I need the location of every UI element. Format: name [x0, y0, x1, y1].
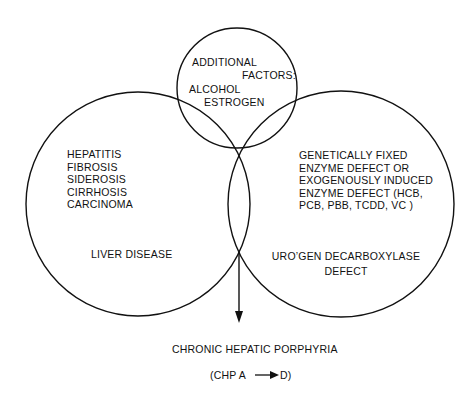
factor-item-estrogen: ESTROGEN [204, 96, 265, 109]
factor-item-alcohol: ALCOHOL [189, 83, 265, 96]
liver-item-carcinoma: CARCINOMA [67, 198, 133, 211]
liver-item-hepatitis: HEPATITIS [67, 148, 133, 161]
urogen-label-line-2: DEFECT [266, 265, 426, 278]
enzyme-line-5: PCB, PBB, TCDD, VC ) [299, 199, 433, 212]
liver-disease-items: HEPATITIS FIBROSIS SIDEROSIS CIRRHOSIS C… [67, 148, 133, 211]
outcome-subtitle-left: (CHP A [210, 369, 246, 382]
liver-item-siderosis: SIDEROSIS [67, 173, 133, 186]
outcome-title: CHRONIC HEPATIC PORPHYRIA [172, 343, 338, 356]
enzyme-line-1: GENETICALLY FIXED [299, 149, 433, 162]
additional-factors-items: ALCOHOL ESTROGEN [189, 83, 265, 108]
liver-disease-label: LIVER DISEASE [91, 248, 172, 261]
enzyme-line-4: ENZYME DEFECT (HCB, [299, 187, 433, 200]
additional-factors-text: ADDITIONAL FACTORS: [192, 56, 296, 81]
urogen-label-line-1: URO’GEN DECARBOXYLASE [266, 250, 426, 263]
liver-disease-circle [26, 92, 250, 316]
enzyme-defect-description: GENETICALLY FIXED ENZYME DEFECT OR EXOGE… [299, 149, 433, 212]
liver-item-cirrhosis: CIRRHOSIS [67, 186, 133, 199]
outcome-subtitle-right: D) [280, 369, 291, 382]
additional-title-line-2: FACTORS: [242, 69, 296, 82]
chp-arrow-head-icon [270, 371, 279, 379]
outcome-arrow-head-icon [235, 311, 243, 323]
urogen-label: URO’GEN DECARBOXYLASE DEFECT [266, 250, 426, 277]
enzyme-line-2: ENZYME DEFECT OR [299, 162, 433, 175]
additional-title-line-1: ADDITIONAL [192, 56, 296, 69]
enzyme-line-3: EXOGENOUSLY INDUCED [299, 174, 433, 187]
liver-item-fibrosis: FIBROSIS [67, 161, 133, 174]
